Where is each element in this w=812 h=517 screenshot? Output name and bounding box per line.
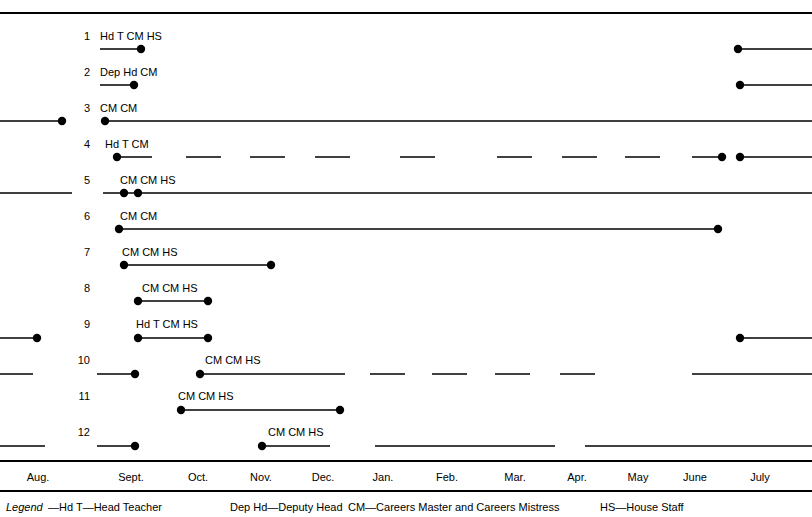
row-number-label: 12 bbox=[78, 426, 90, 438]
role-annotation-label: CM CM HS bbox=[142, 282, 198, 294]
month-tick-label: Aug. bbox=[27, 471, 50, 483]
timeline-row[interactable]: 9Hd T CM HS bbox=[0, 318, 812, 342]
timeline-event-dot[interactable] bbox=[258, 442, 266, 450]
row-number-label: 8 bbox=[84, 282, 90, 294]
timeline-row[interactable]: 12CM CM HS bbox=[0, 426, 812, 450]
timeline-row[interactable]: 10CM CM HS bbox=[0, 354, 812, 378]
legend-entry: —Hd T—Head Teacher bbox=[48, 501, 162, 513]
gantt-timeline-figure: 1Hd T CM HS2Dep Hd CM3CM CM4Hd T CM5CM C… bbox=[0, 0, 812, 517]
timeline-event-dot[interactable] bbox=[134, 189, 142, 197]
row-number-label: 4 bbox=[84, 138, 90, 150]
month-axis-labels: Aug.Sept.Oct.Nov.Dec.Jan.Feb.Mar.Apr.May… bbox=[27, 471, 771, 483]
timeline-event-dot[interactable] bbox=[714, 225, 722, 233]
timeline-event-dot[interactable] bbox=[120, 261, 128, 269]
timeline-event-dot[interactable] bbox=[204, 334, 212, 342]
timeline-event-dot[interactable] bbox=[134, 334, 142, 342]
month-tick-label: Nov. bbox=[250, 471, 272, 483]
row-number-label: 1 bbox=[84, 30, 90, 42]
month-tick-label: Oct. bbox=[188, 471, 208, 483]
row-number-label: 9 bbox=[84, 318, 90, 330]
timeline-row[interactable]: 1Hd T CM HS bbox=[84, 30, 812, 53]
timeline-event-dot[interactable] bbox=[134, 297, 142, 305]
month-tick-label: Mar. bbox=[504, 471, 525, 483]
timeline-row[interactable]: 3CM CM bbox=[0, 102, 812, 125]
row-number-label: 7 bbox=[84, 246, 90, 258]
timeline-event-dot[interactable] bbox=[736, 81, 744, 89]
timeline-row[interactable]: 7CM CM HS bbox=[84, 246, 275, 269]
row-number-label: 5 bbox=[84, 174, 90, 186]
month-tick-label: Dec. bbox=[312, 471, 335, 483]
row-number-label: 3 bbox=[84, 102, 90, 114]
month-tick-label: June bbox=[683, 471, 707, 483]
month-tick-label: May bbox=[628, 471, 649, 483]
timeline-row[interactable]: 2Dep Hd CM bbox=[84, 66, 812, 89]
timeline-event-dot[interactable] bbox=[33, 334, 41, 342]
legend-entry: HS—House Staff bbox=[600, 501, 685, 513]
timeline-event-dot[interactable] bbox=[734, 45, 742, 53]
month-tick-label: Sept. bbox=[118, 471, 144, 483]
timeline-event-dot[interactable] bbox=[115, 225, 123, 233]
row-number-label: 2 bbox=[84, 66, 90, 78]
legend-title: Legend bbox=[6, 501, 44, 513]
timeline-event-dot[interactable] bbox=[336, 406, 344, 414]
timeline-row[interactable]: 6CM CM bbox=[84, 210, 722, 233]
month-tick-label: July bbox=[750, 471, 770, 483]
timeline-event-dot[interactable] bbox=[58, 117, 66, 125]
role-annotation-label: CM CM bbox=[120, 210, 157, 222]
timeline-event-dot[interactable] bbox=[267, 261, 275, 269]
role-annotation-label: Dep Hd CM bbox=[100, 66, 157, 78]
timeline-event-dot[interactable] bbox=[130, 81, 138, 89]
row-number-label: 6 bbox=[84, 210, 90, 222]
role-annotation-label: Hd T CM HS bbox=[136, 318, 198, 330]
role-annotation-label: CM CM HS bbox=[122, 246, 178, 258]
timeline-rows-layer: 1Hd T CM HS2Dep Hd CM3CM CM4Hd T CM5CM C… bbox=[0, 30, 812, 450]
timeline-event-dot[interactable] bbox=[101, 117, 109, 125]
timeline-row[interactable]: 11CM CM HS bbox=[79, 390, 345, 414]
role-annotation-label: CM CM bbox=[100, 102, 137, 114]
role-annotation-label: Hd T CM bbox=[105, 138, 149, 150]
timeline-event-dot[interactable] bbox=[196, 370, 204, 378]
legend-row: Legend—Hd T—Head TeacherDep Hd—Deputy He… bbox=[6, 501, 685, 513]
legend-entry: CM—Careers Master and Careers Mistress bbox=[348, 501, 560, 513]
timeline-row[interactable]: 4Hd T CM bbox=[84, 138, 812, 161]
row-number-label: 10 bbox=[78, 354, 90, 366]
row-number-label: 11 bbox=[79, 390, 90, 402]
month-tick-label: Feb. bbox=[436, 471, 458, 483]
timeline-event-dot[interactable] bbox=[736, 153, 744, 161]
timeline-row[interactable]: 5CM CM HS bbox=[0, 174, 812, 197]
month-tick-label: Jan. bbox=[373, 471, 394, 483]
timeline-event-dot[interactable] bbox=[137, 45, 145, 53]
role-annotation-label: CM CM HS bbox=[268, 426, 324, 438]
timeline-event-dot[interactable] bbox=[718, 153, 726, 161]
timeline-event-dot[interactable] bbox=[120, 189, 128, 197]
role-annotation-label: CM CM HS bbox=[205, 354, 261, 366]
timeline-event-dot[interactable] bbox=[736, 334, 744, 342]
timeline-row[interactable]: 8CM CM HS bbox=[84, 282, 212, 305]
role-annotation-label: Hd T CM HS bbox=[100, 30, 162, 42]
timeline-event-dot[interactable] bbox=[204, 297, 212, 305]
timeline-event-dot[interactable] bbox=[113, 153, 121, 161]
timeline-chart-canvas: 1Hd T CM HS2Dep Hd CM3CM CM4Hd T CM5CM C… bbox=[0, 0, 812, 517]
month-tick-label: Apr. bbox=[567, 471, 587, 483]
legend-entry: Dep Hd—Deputy Head bbox=[230, 501, 343, 513]
timeline-event-dot[interactable] bbox=[177, 406, 185, 414]
timeline-event-dot[interactable] bbox=[131, 370, 139, 378]
role-annotation-label: CM CM HS bbox=[178, 390, 234, 402]
timeline-event-dot[interactable] bbox=[131, 442, 139, 450]
role-annotation-label: CM CM HS bbox=[120, 174, 176, 186]
